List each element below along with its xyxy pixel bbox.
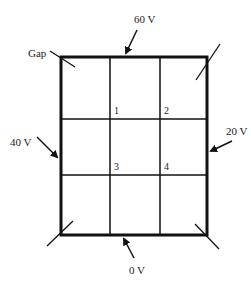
arrow-right-icon: [211, 141, 232, 151]
boundary-box: [61, 57, 207, 235]
arrow-left-icon: [37, 137, 57, 157]
arrow-top-icon: [126, 30, 137, 53]
node-label-2: 2: [164, 105, 169, 116]
left-potential-label: 40 V: [10, 136, 32, 148]
node-label-4: 4: [164, 161, 169, 172]
gap-label: Gap: [28, 47, 47, 59]
bottom-potential-label: 0 V: [129, 264, 145, 276]
node-label-3: 3: [114, 161, 119, 172]
top-potential-label: 60 V: [134, 13, 156, 25]
potential-grid-diagram: Gap 60 V 40 V 20 V 0 V 1 2 3 4: [0, 0, 251, 282]
arrow-bottom-icon: [124, 239, 134, 258]
node-label-1: 1: [114, 105, 119, 116]
right-potential-label: 20 V: [226, 125, 248, 137]
